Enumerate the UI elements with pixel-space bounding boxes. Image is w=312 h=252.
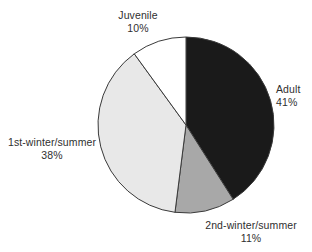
pie-chart: Juvenile 10% Adult 41% 2nd-winter/summer… bbox=[0, 0, 312, 252]
pie-label-1st-winter-summer-value: 38% bbox=[4, 149, 100, 162]
pie-label-2nd-winter-summer: 2nd-winter/summer 11% bbox=[190, 219, 312, 245]
pie-label-juvenile-name: Juvenile bbox=[101, 9, 175, 22]
pie-label-2nd-winter-summer-name: 2nd-winter/summer bbox=[190, 219, 312, 232]
pie-chart-svg bbox=[0, 0, 312, 252]
pie-label-adult-value: 41% bbox=[276, 96, 312, 109]
pie-label-1st-winter-summer-name: 1st-winter/summer bbox=[4, 136, 100, 149]
pie-label-juvenile: Juvenile 10% bbox=[101, 9, 175, 35]
pie-label-adult: Adult 41% bbox=[276, 83, 312, 109]
pie-label-1st-winter-summer: 1st-winter/summer 38% bbox=[4, 136, 100, 162]
pie-label-juvenile-value: 10% bbox=[101, 22, 175, 35]
pie-label-2nd-winter-summer-value: 11% bbox=[190, 232, 312, 245]
pie-label-adult-name: Adult bbox=[276, 83, 312, 96]
